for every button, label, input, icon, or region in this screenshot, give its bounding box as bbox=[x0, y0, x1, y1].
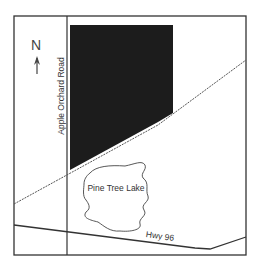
shaded-parcel bbox=[70, 25, 173, 170]
pine-tree-lake-label: Pine Tree Lake bbox=[87, 183, 144, 193]
hwy-96-line bbox=[14, 225, 246, 249]
pine-tree-lake-outline bbox=[84, 163, 149, 232]
north-label: N bbox=[31, 37, 41, 53]
apple-orchard-road-label: Apple Orchard Road bbox=[56, 57, 66, 135]
